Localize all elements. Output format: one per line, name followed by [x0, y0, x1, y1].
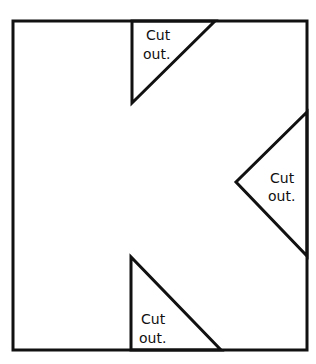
right-cutout-label-line1: Cut — [270, 170, 295, 186]
cutout-diagram: Cut out. Cut out. Cut out. — [0, 0, 316, 364]
top-cutout-triangle — [132, 21, 215, 103]
top-cutout-label-line1: Cut — [146, 27, 171, 43]
bottom-cutout-label-line2: out. — [139, 330, 166, 346]
outer-rectangle — [13, 21, 307, 350]
bottom-cutout-label-line1: Cut — [141, 311, 166, 327]
right-cutout-label-line2: out. — [268, 188, 295, 204]
top-cutout-label-line2: out. — [143, 46, 170, 62]
